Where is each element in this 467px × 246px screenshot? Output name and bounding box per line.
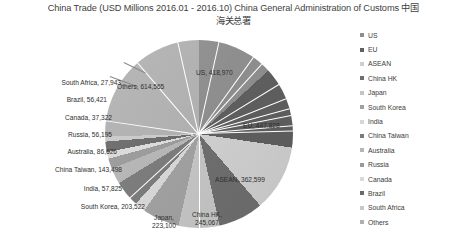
legend-item-eu[interactable]: EU <box>360 42 467 56</box>
legend-label-india: India <box>368 118 383 125</box>
legend-swatch-india <box>360 120 364 124</box>
legend-swatch-others <box>360 220 364 224</box>
legend-label-brazil: Brazil <box>368 190 385 197</box>
legend-label-south-korea: South Korea <box>368 104 406 111</box>
data-label-asean: ASEAN, 362,599 <box>215 176 265 184</box>
chart-title-line1: China Trade (USD Millions 2016.01 - 2016… <box>48 3 419 13</box>
legend-swatch-canada <box>360 177 364 181</box>
data-label-others: Others, 614,565 <box>117 83 164 91</box>
data-label-south-africa: South Africa, 27,943 <box>0 79 121 87</box>
legend-item-china-taiwan[interactable]: China Taiwan <box>360 129 467 143</box>
data-label-us: US, 418,970 <box>196 69 233 77</box>
legend-swatch-japan <box>360 91 364 95</box>
data-label-japan-name: Japan, <box>154 214 174 221</box>
legend-swatch-asean <box>360 62 364 66</box>
legend-label-south-africa: South Africa <box>368 204 405 211</box>
data-label-japan: Japan, 223,100 <box>145 214 183 230</box>
legend-item-japan[interactable]: Japan <box>360 86 467 100</box>
legend-item-asean[interactable]: ASEAN <box>360 57 467 71</box>
data-label-eu: EU, 447,828 <box>243 122 280 130</box>
legend-swatch-china-taiwan <box>360 134 364 138</box>
legend-label-asean: ASEAN <box>368 60 391 67</box>
legend-swatch-south-korea <box>360 105 364 109</box>
legend-swatch-south-africa <box>360 206 364 210</box>
legend-swatch-australia <box>360 148 364 152</box>
data-label-india: India, 57,825 <box>0 185 122 193</box>
legend-label-russia: Russia <box>368 161 389 168</box>
legend-item-canada[interactable]: Canada <box>360 172 467 186</box>
data-label-russia: Russia, 56,195 <box>0 131 112 139</box>
data-label-south-korea: South Korea, 203,522 <box>0 203 145 211</box>
data-label-canada: Canada, 37,322 <box>0 114 112 122</box>
pie-chart-figure: China Trade (USD Millions 2016.01 - 2016… <box>0 0 467 246</box>
legend-label-china-taiwan: China Taiwan <box>368 132 409 139</box>
legend-label-us: US <box>368 32 377 39</box>
legend-item-us[interactable]: US <box>360 28 467 42</box>
chart-title: China Trade (USD Millions 2016.01 - 2016… <box>0 2 467 27</box>
legend-item-south-africa[interactable]: South Africa <box>360 201 467 215</box>
legend-swatch-eu <box>360 48 364 52</box>
legend-swatch-brazil <box>360 191 364 195</box>
legend-label-others: Others <box>368 219 388 226</box>
legend-item-brazil[interactable]: Brazil <box>360 186 467 200</box>
data-label-china-taiwan: China Taiwan, 143,498 <box>0 166 122 174</box>
legend-swatch-russia <box>360 163 364 167</box>
data-label-japan-value: 223,100 <box>152 222 176 229</box>
legend-item-south-korea[interactable]: South Korea <box>360 100 467 114</box>
legend-item-india[interactable]: India <box>360 114 467 128</box>
legend-label-australia: Australia <box>368 147 394 154</box>
legend-item-others[interactable]: Others <box>360 215 467 229</box>
legend-swatch-us <box>360 33 364 37</box>
data-label-china-hk-value: 245,067 <box>195 219 219 226</box>
data-label-brazil: Brazil, 56,421 <box>0 96 107 104</box>
legend-swatch-china-hk <box>360 76 364 80</box>
legend-label-china-hk: China HK <box>368 75 397 82</box>
legend: US EU ASEAN China HK Japan South Korea I… <box>360 28 467 229</box>
legend-label-eu: EU <box>368 46 377 53</box>
legend-item-russia[interactable]: Russia <box>360 158 467 172</box>
chart-title-line2: 海关总署 <box>0 15 467 28</box>
legend-item-china-hk[interactable]: China HK <box>360 71 467 85</box>
legend-label-canada: Canada <box>368 176 392 183</box>
data-label-australia: Australia, 86,626 <box>0 148 117 156</box>
data-label-china-hk-name: China HK, <box>192 211 222 218</box>
legend-item-australia[interactable]: Australia <box>360 143 467 157</box>
plot-area: US, 418,970 EU, 447,828 ASEAN, 362,599 C… <box>0 28 355 246</box>
data-label-china-hk: China HK, 245,067 <box>186 211 228 227</box>
legend-label-japan: Japan <box>368 89 387 96</box>
